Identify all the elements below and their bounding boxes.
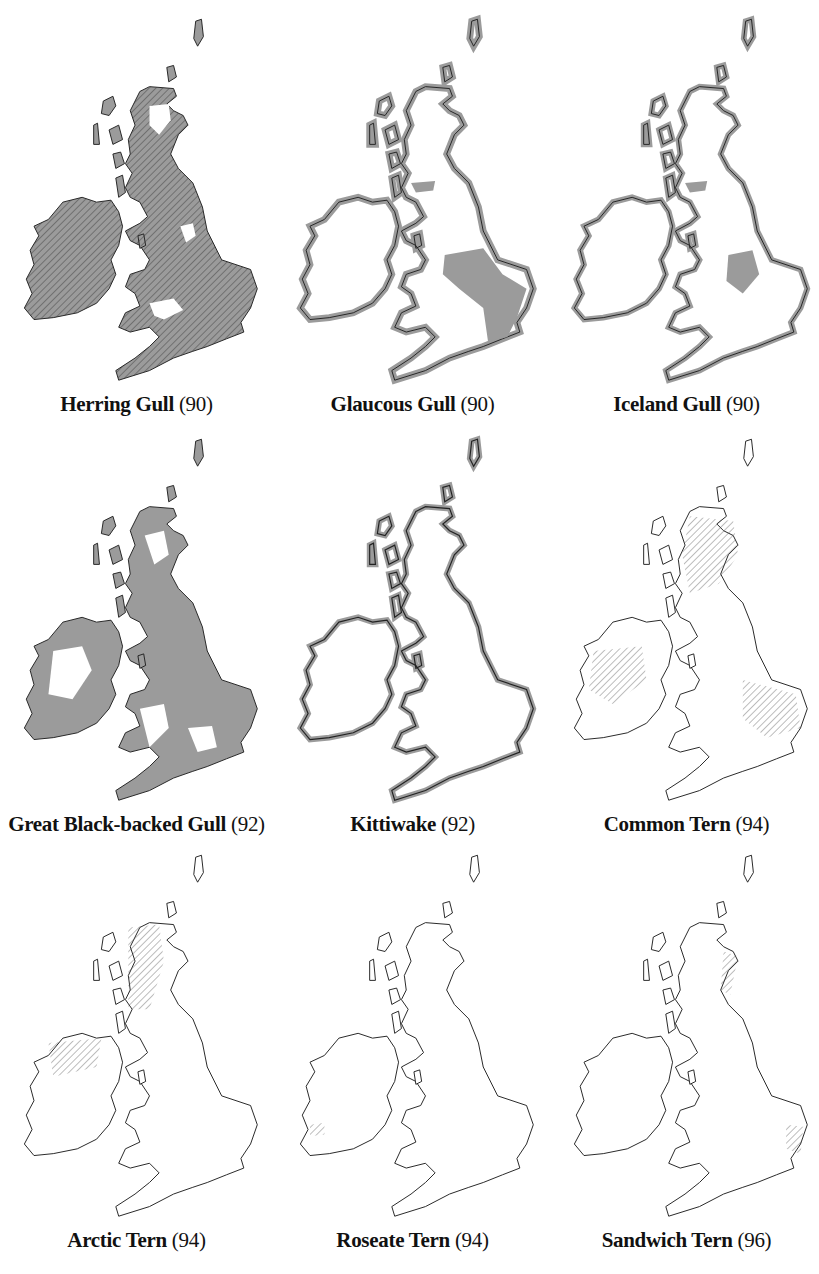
iceland-gull-map: [550, 0, 819, 385]
glaucous-gull-map: [276, 0, 549, 385]
species-number: (90): [179, 392, 213, 416]
map-panel-sandwich-tern: Sandwich Tern (96): [550, 836, 819, 1254]
common-tern-map: [550, 420, 819, 805]
species-name: Kittiwake: [350, 812, 436, 836]
species-name: Great Black-backed Gull: [8, 812, 226, 836]
map-caption: Sandwich Tern (96): [550, 1228, 819, 1253]
species-number: (96): [738, 1228, 772, 1252]
species-name: Roseate Tern: [336, 1228, 450, 1252]
map-caption: Herring Gull (90): [0, 392, 273, 417]
species-number: (94): [735, 812, 769, 836]
species-name: Iceland Gull: [613, 392, 721, 416]
map-panel-common-tern: Common Tern (94): [550, 420, 819, 838]
map-caption: Common Tern (94): [550, 812, 819, 837]
great-black-backed-gull-map: [0, 420, 273, 805]
species-number: (90): [726, 392, 760, 416]
species-number: (94): [172, 1228, 206, 1252]
map-grid: Herring Gull (90) Glaucous Gull (90) Ice…: [0, 0, 819, 1274]
map-caption: Kittiwake (92): [276, 812, 549, 837]
species-number: (94): [455, 1228, 489, 1252]
species-number: (92): [441, 812, 475, 836]
map-caption: Glaucous Gull (90): [276, 392, 549, 417]
species-name: Arctic Tern: [67, 1228, 167, 1252]
map-panel-herring-gull: Herring Gull (90): [0, 0, 273, 418]
map-panel-iceland-gull: Iceland Gull (90): [550, 0, 819, 418]
map-caption: Arctic Tern (94): [0, 1228, 273, 1253]
species-number: (92): [231, 812, 265, 836]
species-number: (90): [461, 392, 495, 416]
sandwich-tern-map: [550, 836, 819, 1221]
species-name: Common Tern: [604, 812, 731, 836]
map-caption: Iceland Gull (90): [550, 392, 819, 417]
species-name: Sandwich Tern: [602, 1228, 733, 1252]
arctic-tern-map: [0, 836, 273, 1221]
roseate-tern-map: [276, 836, 549, 1221]
herring-gull-map: [0, 0, 273, 385]
map-panel-kittiwake: Kittiwake (92): [276, 420, 549, 838]
map-panel-roseate-tern: Roseate Tern (94): [276, 836, 549, 1254]
species-name: Glaucous Gull: [331, 392, 456, 416]
map-panel-great-black-backed-gull: Great Black-backed Gull (92): [0, 420, 273, 838]
map-panel-glaucous-gull: Glaucous Gull (90): [276, 0, 549, 418]
map-caption: Great Black-backed Gull (92): [0, 812, 273, 837]
species-name: Herring Gull: [60, 392, 174, 416]
kittiwake-map: [276, 420, 549, 805]
map-caption: Roseate Tern (94): [276, 1228, 549, 1253]
map-panel-arctic-tern: Arctic Tern (94): [0, 836, 273, 1254]
